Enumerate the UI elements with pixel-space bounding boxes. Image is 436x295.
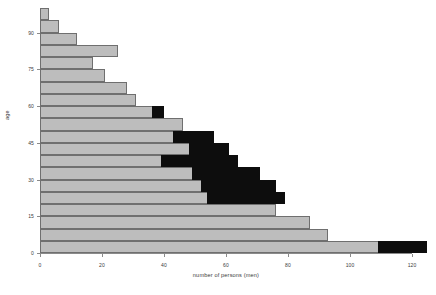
x-tick-label: 20 <box>99 262 105 268</box>
bar-row <box>40 204 276 216</box>
bar-row <box>40 131 214 143</box>
x-axis-title: number of persons (men) <box>40 272 412 278</box>
x-tick-label: 0 <box>39 262 42 268</box>
bar-row <box>40 82 127 94</box>
y-tick-label: 15 <box>28 213 34 219</box>
bar-segment-light <box>40 8 49 20</box>
bar-segment-light <box>40 57 93 69</box>
y-tick-label: 90 <box>28 30 34 36</box>
bar-segment-light <box>40 20 59 32</box>
y-tick-label: 75 <box>28 66 34 72</box>
y-tick-label: 0 <box>31 250 34 256</box>
bar-segment-light <box>40 82 127 94</box>
x-tick-mark <box>226 254 227 257</box>
bar-row <box>40 155 238 167</box>
bar-segment-dark <box>152 106 164 118</box>
x-tick-label: 40 <box>161 262 167 268</box>
y-tick-mark <box>37 33 40 34</box>
chart-root: 020406080100120 0153045607590 number of … <box>0 0 436 295</box>
bar-segment-light <box>40 241 378 253</box>
y-tick-mark <box>37 180 40 181</box>
bar-row <box>40 106 164 118</box>
bar-row <box>40 241 428 253</box>
bar-row <box>40 143 229 155</box>
x-tick-label: 120 <box>408 262 417 268</box>
bar-segment-light <box>40 33 77 45</box>
bar-row <box>40 118 183 130</box>
bar-segment-light <box>40 167 192 179</box>
bar-segment-dark <box>201 180 275 192</box>
bar-segment-light <box>40 143 189 155</box>
bar-row <box>40 94 136 106</box>
y-tick-mark <box>37 69 40 70</box>
bar-segment-light <box>40 229 328 241</box>
x-tick-mark <box>40 254 41 257</box>
bar-segment-light <box>40 204 276 216</box>
bar-segment-light <box>40 69 105 81</box>
bar-row <box>40 45 118 57</box>
bar-segment-dark <box>173 131 213 143</box>
bar-segment-light <box>40 192 207 204</box>
x-tick-mark <box>350 254 351 257</box>
bar-row <box>40 192 285 204</box>
y-tick-mark <box>37 216 40 217</box>
bar-segment-light <box>40 94 136 106</box>
x-tick-mark <box>412 254 413 257</box>
y-tick-label: 45 <box>28 140 34 146</box>
x-tick-label: 80 <box>285 262 291 268</box>
bar-segment-dark <box>189 143 229 155</box>
y-tick-label: 30 <box>28 177 34 183</box>
y-axis-title: age <box>4 110 10 120</box>
bar-row <box>40 180 276 192</box>
bar-row <box>40 57 93 69</box>
bar-row <box>40 20 59 32</box>
bar-row <box>40 167 260 179</box>
y-tick-mark <box>37 253 40 254</box>
bar-segment-dark <box>192 167 260 179</box>
bar-row <box>40 33 77 45</box>
bar-segment-dark <box>207 192 285 204</box>
bar-segment-light <box>40 45 118 57</box>
bar-segment-dark <box>161 155 239 167</box>
bar-segment-light <box>40 131 173 143</box>
plot-area: 020406080100120 0153045607590 <box>40 8 412 253</box>
x-tick-mark <box>288 254 289 257</box>
y-tick-mark <box>37 143 40 144</box>
y-tick-label: 60 <box>28 103 34 109</box>
bar-segment-light <box>40 155 161 167</box>
x-tick-mark <box>164 254 165 257</box>
bar-segment-light <box>40 180 201 192</box>
x-tick-label: 60 <box>223 262 229 268</box>
bar-row <box>40 229 328 241</box>
bar-row <box>40 216 310 228</box>
bar-segment-light <box>40 118 183 130</box>
bar-row <box>40 69 105 81</box>
bar-row <box>40 8 49 20</box>
x-tick-label: 100 <box>346 262 355 268</box>
bar-segment-dark <box>378 241 428 253</box>
y-tick-mark <box>37 106 40 107</box>
x-tick-mark <box>102 254 103 257</box>
bar-segment-light <box>40 216 310 228</box>
bar-segment-light <box>40 106 152 118</box>
